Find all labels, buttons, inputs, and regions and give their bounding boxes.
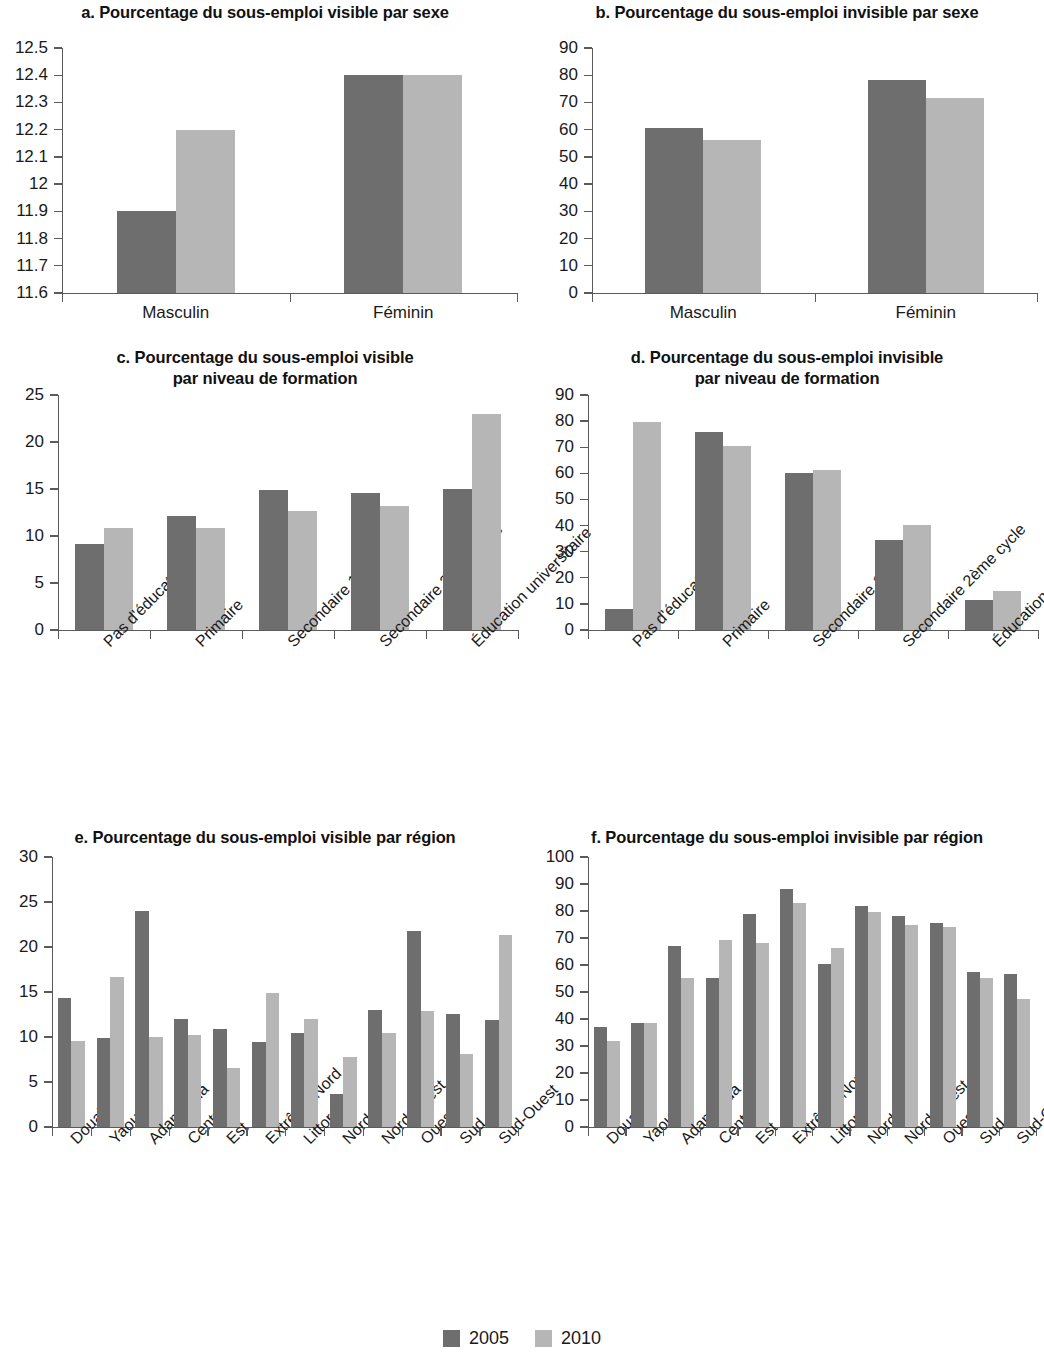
y-tick [44, 946, 52, 947]
x-tick [324, 1127, 325, 1136]
y-tick [580, 1099, 588, 1100]
bar-a-1-2005 [344, 75, 403, 293]
x-tick [440, 1127, 441, 1136]
bar-f-1-2010 [644, 1023, 657, 1127]
y-tick [584, 129, 592, 130]
bar-f-0-2010 [607, 1041, 620, 1127]
y-tick [54, 211, 62, 212]
bar-e-7-2005 [330, 1094, 344, 1127]
bar-d-4-2005 [965, 600, 993, 630]
bar-f-7-2005 [855, 906, 868, 1127]
figure-sous-emploi: a. Pourcentage du sous-emploi visible pa… [0, 0, 1044, 1363]
x-tick [1038, 630, 1039, 639]
y-tick [580, 420, 588, 421]
y-tick-label: 15 [19, 982, 38, 1002]
x-tick [849, 1127, 850, 1136]
chart-panel-f: f. Pourcentage du sous-emploi invisible … [530, 825, 1044, 1165]
y-tick-label: 40 [555, 516, 574, 536]
y-tick [584, 265, 592, 266]
x-tick [775, 1127, 776, 1136]
y-tick [50, 394, 58, 395]
bar-e-2-2010 [149, 1037, 163, 1127]
chart-panel-a: a. Pourcentage du sous-emploi visible pa… [0, 0, 530, 340]
bar-f-6-2005 [818, 964, 831, 1127]
bar-e-7-2010 [343, 1057, 357, 1127]
y-tick [584, 183, 592, 184]
y-axis-line [588, 395, 589, 630]
plot-area-f: 0102030405060708090100DoualaYaoundéAdama… [588, 857, 1036, 1127]
y-axis-line [52, 857, 53, 1127]
bar-f-8-2005 [892, 916, 905, 1127]
y-tick [580, 394, 588, 395]
bar-e-11-2005 [485, 1020, 499, 1127]
y-tick [580, 577, 588, 578]
bar-f-10-2005 [967, 972, 980, 1127]
y-tick [44, 901, 52, 902]
y-tick [44, 1081, 52, 1082]
chart-title-line: par niveau de formation [15, 368, 515, 389]
y-tick [44, 856, 52, 857]
bar-b-1-2010 [926, 98, 984, 293]
y-tick-label: 11.7 [16, 256, 48, 276]
y-tick [44, 1126, 52, 1127]
x-tick [91, 1127, 92, 1136]
bar-e-1-2005 [97, 1038, 111, 1127]
y-tick [580, 910, 588, 911]
x-tick [246, 1127, 247, 1136]
bar-a-0-2005 [117, 211, 176, 293]
y-tick-label: 90 [559, 38, 578, 58]
bar-e-10-2010 [460, 1054, 474, 1127]
y-tick [580, 629, 588, 630]
x-tick [588, 630, 589, 639]
y-tick [584, 102, 592, 103]
y-tick [580, 991, 588, 992]
y-tick-label: 100 [546, 847, 574, 867]
y-tick [50, 535, 58, 536]
chart-legend: 20052010 [0, 1328, 1044, 1349]
y-tick-label: 30 [555, 542, 574, 562]
legend-swatch-icon [443, 1330, 460, 1347]
bar-f-4-2005 [743, 914, 756, 1127]
x-tick [242, 630, 243, 639]
x-tick-label: Masculin [670, 303, 737, 323]
y-tick-label: 0 [35, 620, 44, 640]
y-tick [50, 488, 58, 489]
y-tick [54, 265, 62, 266]
plot-area-b: 0102030405060708090MasculinFéminin [592, 48, 1037, 293]
bar-c-3-2005 [351, 493, 380, 630]
y-tick-label: 11.9 [16, 201, 48, 221]
bar-e-3-2010 [188, 1035, 202, 1127]
x-tick [768, 630, 769, 639]
chart-title-c: c. Pourcentage du sous-emploi visiblepar… [15, 347, 515, 389]
bar-e-11-2010 [499, 935, 513, 1127]
bar-f-8-2010 [905, 925, 918, 1127]
bar-f-10-2010 [980, 978, 993, 1127]
bar-d-1-2005 [695, 432, 723, 630]
x-tick [815, 293, 816, 302]
x-tick [130, 1127, 131, 1136]
bar-e-5-2010 [266, 993, 280, 1127]
x-tick-label: Féminin [373, 303, 433, 323]
x-tick [169, 1127, 170, 1136]
y-tick-label: 50 [555, 982, 574, 1002]
bar-f-6-2010 [831, 948, 844, 1127]
x-tick [290, 293, 291, 302]
x-tick [887, 1127, 888, 1136]
legend-item-2005: 2005 [443, 1328, 509, 1349]
chart-title-f: f. Pourcentage du sous-emploi invisible … [537, 827, 1037, 848]
plot-area-c: 0510152025Pas d'éducationPrimaireSeconda… [58, 395, 518, 630]
legend-swatch-icon [535, 1330, 552, 1347]
chart-title-line: a. Pourcentage du sous-emploi visible pa… [15, 2, 515, 23]
y-tick-label: 12.4 [15, 65, 48, 85]
chart-title-a: a. Pourcentage du sous-emploi visible pa… [15, 2, 515, 23]
y-tick [580, 603, 588, 604]
bar-e-3-2005 [174, 1019, 188, 1127]
bar-f-1-2005 [631, 1023, 644, 1127]
bar-f-9-2005 [930, 923, 943, 1127]
bar-e-0-2010 [71, 1041, 85, 1127]
y-tick [584, 211, 592, 212]
bar-e-1-2010 [110, 977, 124, 1127]
bar-e-9-2010 [421, 1011, 435, 1127]
y-axis-line [588, 857, 589, 1127]
y-tick-label: 10 [19, 1027, 38, 1047]
